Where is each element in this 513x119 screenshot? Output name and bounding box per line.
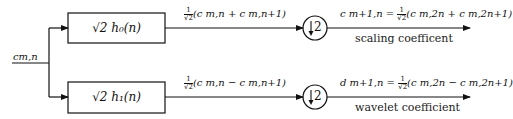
wavelet-coefficient-caption: wavelet coefficient — [355, 102, 460, 113]
lowpass-filter-label: √2 h₀(n) — [68, 22, 165, 34]
lowpass-intermediate-label: 1√2(c m,n + c m,n+1) — [184, 7, 286, 22]
highpass-filter-label: √2 h₁(n) — [68, 91, 165, 103]
scaling-coefficient-expression: c m+1,n = 1√2(c m,2n + c m,2n+1) — [340, 7, 512, 22]
lowpass-downsample-factor: 2 — [314, 21, 322, 33]
wavelet-coefficient-expression: d m+1,n = 1√2(c m,2n − c m,2n+1) — [340, 76, 513, 91]
highpass-downsample-factor: 2 — [314, 90, 322, 102]
scaling-coefficient-caption: scaling coefficent — [355, 33, 453, 44]
input-label: cm,n — [13, 52, 38, 62]
highpass-intermediate-label: 1√2(c m,n − c m,n+1) — [184, 76, 286, 91]
